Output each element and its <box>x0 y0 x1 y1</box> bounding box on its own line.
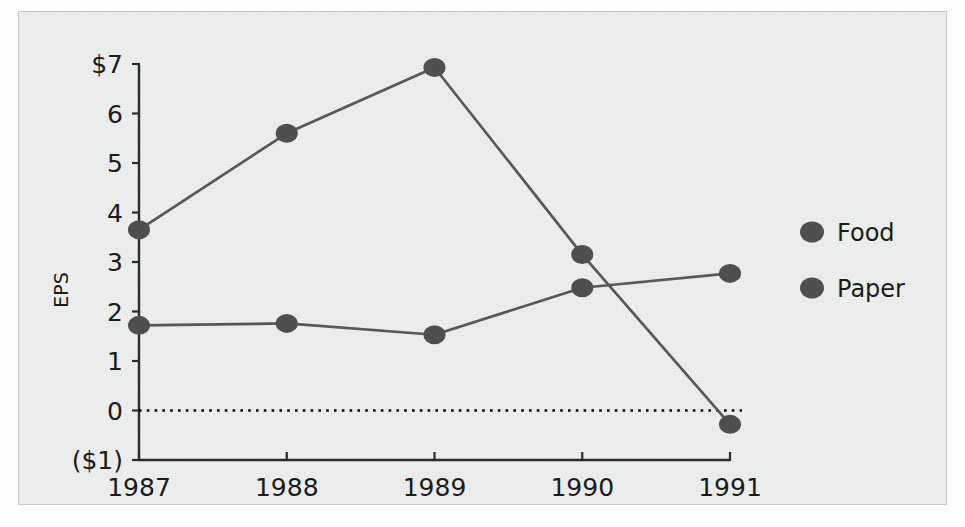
data-point-marker <box>276 124 298 143</box>
legend-label: Food <box>837 219 895 247</box>
data-point-marker <box>128 316 150 335</box>
data-point-marker <box>719 415 741 434</box>
y-axis-title: EPS <box>50 272 72 308</box>
y-tick-label: 2 <box>107 298 123 327</box>
y-tick-label: 0 <box>107 397 123 426</box>
series-layer <box>128 58 741 434</box>
x-tick-label: 1987 <box>107 473 171 502</box>
y-tick-label: 6 <box>107 100 123 129</box>
y-tick-label: 4 <box>107 199 123 228</box>
y-tick-label: ($1) <box>72 446 123 475</box>
x-tick-label: 1991 <box>698 473 762 502</box>
data-point-marker <box>424 58 446 77</box>
y-tick-label: 1 <box>107 347 123 376</box>
y-axis-ticks: $76543210($1) <box>72 50 140 475</box>
legend-item-paper[interactable]: Paper <box>800 275 905 303</box>
data-point-marker <box>571 245 593 264</box>
x-tick-label: 1989 <box>403 473 467 502</box>
data-point-marker <box>276 314 298 333</box>
y-tick-label: 5 <box>107 149 123 178</box>
data-point-marker <box>571 278 593 297</box>
y-tick-label: $7 <box>91 50 123 79</box>
x-tick-label: 1990 <box>550 473 614 502</box>
data-point-marker <box>128 220 150 239</box>
y-tick-label: 3 <box>107 248 123 277</box>
x-tick-label: 1988 <box>255 473 319 502</box>
chart-legend: FoodPaper <box>800 219 905 303</box>
data-point-marker <box>719 264 741 283</box>
filled-circle-marker <box>800 222 824 243</box>
series-line <box>139 67 730 424</box>
filled-circle-marker <box>800 278 824 299</box>
chart-figure: EPS $76543210($1) 19871988198919901991 F… <box>0 0 965 527</box>
line-chart: EPS $76543210($1) 19871988198919901991 F… <box>0 0 965 527</box>
series-food <box>128 58 741 434</box>
legend-label: Paper <box>837 275 905 303</box>
data-point-marker <box>424 325 446 344</box>
legend-item-food[interactable]: Food <box>800 219 895 247</box>
